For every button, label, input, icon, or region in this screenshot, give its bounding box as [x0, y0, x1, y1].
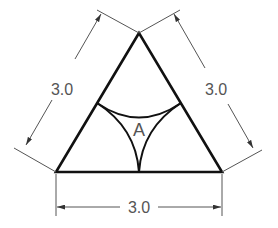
dimension-bottom-label: 3.0 [128, 199, 150, 216]
dimension-left-label: 3.0 [51, 81, 73, 98]
region-label: A [133, 120, 145, 140]
dimension-right [139, 10, 262, 172]
dimension-right-label: 3.0 [205, 81, 227, 98]
inner-arc-top [97, 103, 181, 118]
triangle-diagram: 3.0 3.0 3.0 A [0, 0, 278, 228]
dimension-left [14, 10, 139, 172]
